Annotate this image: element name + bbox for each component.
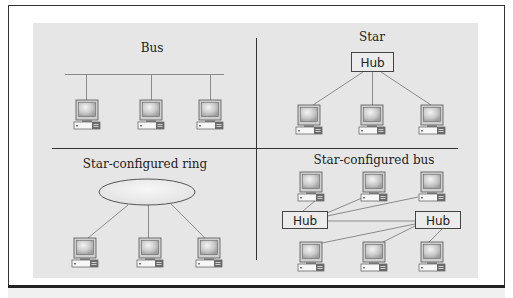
hub-label: Hub (293, 214, 317, 228)
computer-icon (138, 100, 164, 129)
panel-title-star-bus: Star-configured bus (314, 153, 435, 167)
panel-title-star: Star (359, 30, 385, 44)
bottom-rule (8, 285, 505, 288)
computer-icon (196, 238, 222, 267)
computer-icon (296, 105, 322, 134)
hub-label: Hub (360, 56, 384, 70)
computer-icon (419, 242, 445, 271)
diagram-background (33, 23, 478, 278)
computer-icon (298, 172, 324, 201)
bottom-strip (8, 288, 505, 298)
network-topologies-figure: Bus Star Hub Star-configured ring Star-c… (0, 0, 513, 298)
panel-title-star-ring: Star-configured ring (83, 157, 208, 171)
ring-ellipse (99, 179, 195, 205)
computer-icon (359, 105, 385, 134)
computer-icon (197, 100, 223, 129)
computer-icon (72, 238, 98, 267)
computer-icon (298, 242, 324, 271)
computer-icon (74, 100, 100, 129)
computer-icon (419, 172, 445, 201)
panel-title-bus: Bus (141, 41, 164, 55)
computer-icon (137, 238, 163, 267)
hub-label: Hub (426, 214, 450, 228)
computer-icon (419, 105, 445, 134)
computer-icon (361, 242, 387, 271)
computer-icon (361, 172, 387, 201)
